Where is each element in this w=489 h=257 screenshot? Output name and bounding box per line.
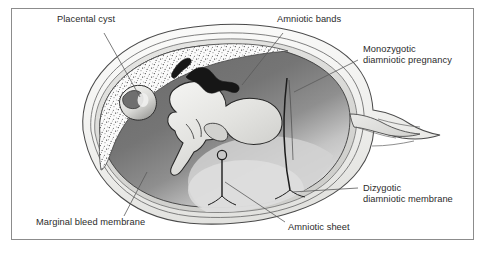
placental-cyst-shape bbox=[120, 85, 157, 120]
label-dizygotic-line2: diamniotic membrane bbox=[363, 194, 453, 205]
label-dizygotic-line1: Dizygotic bbox=[363, 183, 401, 194]
label-marginal-bleed-membrane: Marginal bleed membrane bbox=[36, 217, 145, 228]
figure-root: Placental cyst Amniotic bands Monozygoti… bbox=[0, 0, 489, 257]
label-placental-cyst: Placental cyst bbox=[57, 14, 115, 25]
label-amniotic-sheet: Amniotic sheet bbox=[288, 222, 350, 233]
label-amniotic-bands: Amniotic bands bbox=[277, 14, 341, 25]
label-monozygotic-line2: diamniotic pregnancy bbox=[363, 55, 452, 66]
label-monozygotic-line1: Monozygotic bbox=[363, 44, 416, 55]
